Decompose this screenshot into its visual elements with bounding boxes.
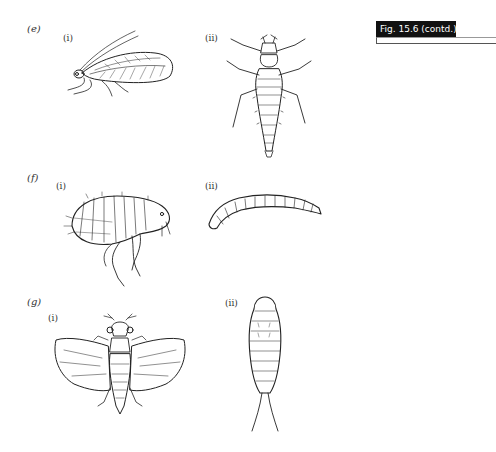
sub-label-e-ii: (ii)	[205, 33, 218, 43]
figure-caption-tag: Fig. 15.6 (contd.)	[376, 21, 496, 43]
lacewing-adult-illustration	[60, 28, 180, 100]
winged-adult-illustration	[50, 318, 190, 418]
figure-number: Fig. 15.6 (contd.)	[376, 21, 456, 37]
figure-tag-rule	[376, 37, 496, 44]
flea-adult-illustration	[62, 188, 177, 288]
lacewing-larva-illustration	[225, 33, 315, 163]
part-label-f: (f)	[27, 172, 39, 183]
flea-larva-illustration	[205, 190, 325, 232]
part-label-g: (g)	[27, 296, 41, 307]
sub-label-g-ii: (ii)	[225, 298, 238, 308]
part-label-e: (e)	[27, 23, 41, 34]
nymph-with-cerci-illustration	[240, 295, 290, 435]
